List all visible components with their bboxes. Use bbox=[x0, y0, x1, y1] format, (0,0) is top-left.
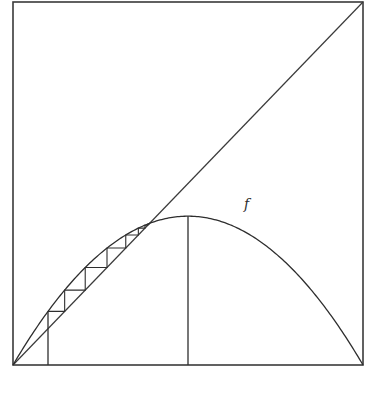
cobweb-staircase bbox=[48, 223, 150, 311]
cobweb-diagram: f bbox=[0, 0, 372, 414]
curve-label-f: f bbox=[243, 196, 252, 212]
